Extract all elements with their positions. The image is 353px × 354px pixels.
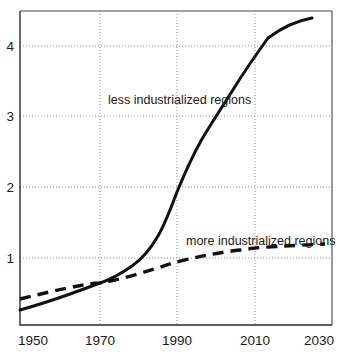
y-tick-label-2: 2 bbox=[6, 180, 14, 195]
y-tick-label-3: 3 bbox=[6, 109, 14, 124]
x-tick-label-1970: 1970 bbox=[85, 333, 115, 348]
y-tick-label-1: 1 bbox=[6, 251, 14, 266]
annotation-less-industrialized-regions: less industrialized regions bbox=[108, 93, 251, 107]
x-tick-label-1950: 1950 bbox=[18, 333, 48, 348]
chart-container: 4 3 2 1 1950 1970 1990 2010 2030 less in… bbox=[0, 0, 353, 354]
plot-axes bbox=[20, 11, 332, 325]
x-tick-label-2010: 2010 bbox=[240, 333, 270, 348]
y-tick-label-4: 4 bbox=[6, 39, 14, 54]
plot-frame bbox=[20, 11, 332, 325]
series-line-more-industrialized bbox=[20, 244, 325, 299]
x-tick-label-1990: 1990 bbox=[162, 333, 192, 348]
line-chart: 4 3 2 1 1950 1970 1990 2010 2030 less in… bbox=[0, 0, 353, 354]
annotation-more-industrialized-regions: more industrialized regions bbox=[186, 234, 335, 248]
x-tick-label-2030: 2030 bbox=[304, 333, 334, 348]
